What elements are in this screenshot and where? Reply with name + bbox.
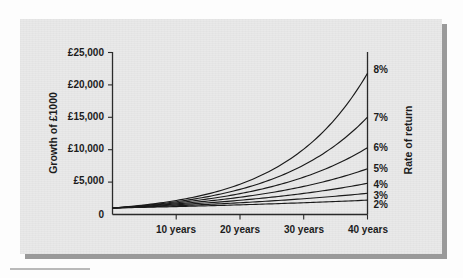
rate-label-6pct: 6% — [374, 142, 389, 153]
x-tick-label-10years: 10 years — [156, 224, 196, 235]
y-tick-label-15000: £15,000 — [68, 111, 105, 122]
growth-curve-8pct — [113, 73, 368, 208]
y-axis-label: Growth of £1000 — [47, 92, 59, 174]
y-tick-label-10000: £10,000 — [68, 143, 105, 154]
rate-of-return-labels-group: 8%7%6%5%4%3%2% — [374, 64, 389, 210]
figure-root: Growth of £1000 Rate of return £25,000 £… — [0, 0, 463, 278]
x-tick-label-20years: 20 years — [220, 224, 260, 235]
rate-label-2pct: 2% — [374, 199, 389, 210]
y-tick-label-20000: £20,000 — [68, 79, 105, 90]
y2-axis-label: Rate of return — [402, 106, 414, 175]
x-tick-label-40years: 40 years — [348, 224, 388, 235]
y-tick-label-0: 0 — [98, 209, 104, 220]
compound-growth-chart: Growth of £1000 Rate of return £25,000 £… — [0, 0, 463, 278]
growth-curves-group — [113, 73, 368, 208]
y-tick-label-5000: £5,000 — [73, 175, 104, 186]
rate-label-7pct: 7% — [374, 112, 389, 123]
rate-label-4pct: 4% — [374, 179, 389, 190]
rate-label-5pct: 5% — [374, 163, 389, 174]
x-tick-label-30years: 30 years — [284, 224, 324, 235]
growth-curve-7pct — [113, 117, 368, 208]
growth-curve-6pct — [113, 148, 368, 208]
y-tick-label-25000: £25,000 — [68, 47, 105, 58]
rate-label-8pct: 8% — [374, 64, 389, 75]
